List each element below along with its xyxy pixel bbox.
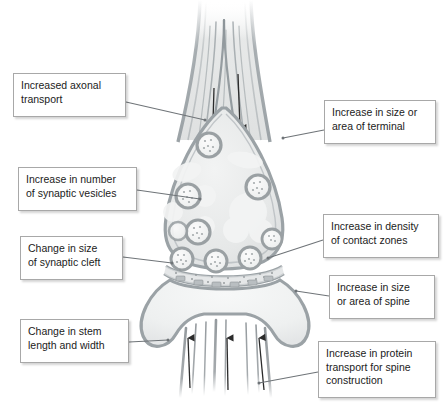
leader-endpoint-terminal-size xyxy=(282,137,285,140)
callout-stem-length: Change in stem length and width xyxy=(20,319,129,363)
leader-endpoint-stem-length xyxy=(167,339,170,342)
spine-transport-filaments xyxy=(180,320,271,398)
leader-endpoint-contact-zones xyxy=(267,257,270,260)
leader-endpoint-vesicle-number xyxy=(199,198,202,201)
callout-axonal-transport: Increased axonal transport xyxy=(13,73,126,117)
dendritic-spine-head xyxy=(141,280,309,346)
leader-terminal-size xyxy=(283,130,324,138)
leader-endpoint-axonal-transport xyxy=(204,119,207,122)
leader-synaptic-cleft xyxy=(123,257,172,263)
callout-vesicle-number: Increase in number of synaptic vesicles xyxy=(18,167,137,211)
callout-protein-transport: Increase in protein transport for spine … xyxy=(318,341,436,398)
callout-spine-size: Increase in size or area of spine xyxy=(329,275,435,319)
leader-endpoint-spine-size xyxy=(295,290,298,293)
figure-canvas: Increased axonal transportIncrease in si… xyxy=(0,0,448,416)
callout-terminal-size: Increase in size or area of terminal xyxy=(324,100,436,144)
callout-synaptic-cleft: Change in size of synaptic cleft xyxy=(20,236,123,280)
leader-endpoint-protein-transport xyxy=(258,382,261,385)
leader-endpoint-synaptic-cleft xyxy=(171,262,174,265)
leader-spine-size xyxy=(296,291,329,296)
callout-contact-zones: Increase in density of contact zones xyxy=(323,214,439,258)
